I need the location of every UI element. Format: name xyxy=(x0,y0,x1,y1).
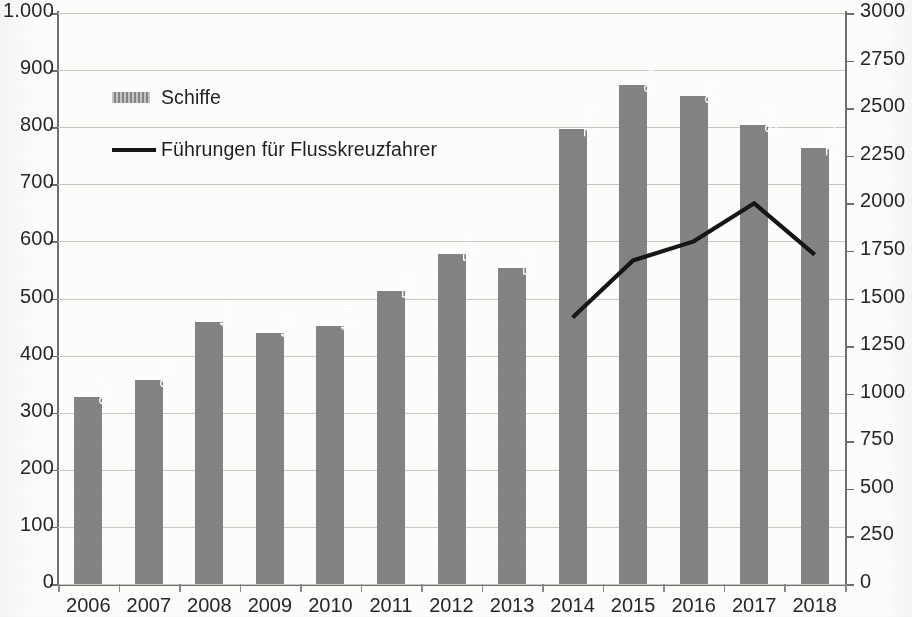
bar xyxy=(438,254,466,584)
category-axis-tick-label: 2007 xyxy=(119,594,180,617)
line-swatch-icon xyxy=(112,148,156,152)
bar-value-label: 764 xyxy=(823,126,843,156)
category-axis-tick-label: 2018 xyxy=(784,594,845,617)
right-axis-tick-label: 1000 xyxy=(860,380,905,403)
left-axis-tick-label: 300 xyxy=(20,399,54,422)
gridline xyxy=(58,584,845,585)
right-axis-tick-label: 1750 xyxy=(860,237,905,260)
right-axis-tick xyxy=(846,394,854,396)
right-axis-tick xyxy=(846,584,854,586)
category-axis-tick xyxy=(421,584,423,592)
right-axis-tick xyxy=(846,13,854,15)
bar xyxy=(135,380,163,584)
bar-value-label: 439 xyxy=(278,311,298,341)
left-axis-tick-label: 0 xyxy=(43,570,54,593)
category-axis-tick-label: 2015 xyxy=(603,594,664,617)
category-axis-tick xyxy=(58,584,60,592)
category-axis-tick-label: 2009 xyxy=(240,594,301,617)
category-axis-tick xyxy=(240,584,242,592)
left-axis-tick-label: 800 xyxy=(20,113,54,136)
right-axis-tick xyxy=(846,346,854,348)
right-axis-tick xyxy=(846,203,854,205)
category-axis-tick xyxy=(542,584,544,592)
chart: 01002003004005006007008009001.000 025050… xyxy=(0,0,912,617)
left-axis-tick-label: 400 xyxy=(20,342,54,365)
gridline xyxy=(58,241,845,242)
category-axis-tick-label: 2012 xyxy=(421,594,482,617)
bar-value-label: 451 xyxy=(338,305,358,335)
right-axis-tick xyxy=(846,61,854,63)
bar xyxy=(195,322,223,584)
right-axis-tick-label: 2500 xyxy=(860,94,905,117)
left-axis-tick-label: 1.000 xyxy=(3,0,54,22)
right-axis-tick xyxy=(846,536,854,538)
gridline xyxy=(58,70,845,71)
right-axis-tick-label: 2250 xyxy=(860,142,905,165)
bar xyxy=(316,326,344,584)
bar-value-label: 458 xyxy=(217,301,237,331)
category-axis-tick-label: 2011 xyxy=(361,594,422,617)
gridline xyxy=(58,127,845,128)
bar xyxy=(680,96,708,584)
category-axis-tick-label: 2010 xyxy=(300,594,361,617)
category-axis-tick xyxy=(663,584,665,592)
category-axis-tick xyxy=(179,584,181,592)
bar-value-label: 553 xyxy=(520,246,540,276)
bar xyxy=(498,268,526,584)
right-axis-tick xyxy=(846,156,854,158)
category-axis-tick xyxy=(845,584,847,592)
right-axis-tick xyxy=(846,108,854,110)
bar-value-label: 358 xyxy=(157,358,177,388)
category-axis-tick-label: 2006 xyxy=(58,594,119,617)
right-axis-tick-label: 0 xyxy=(860,570,871,593)
left-axis-tick-label: 100 xyxy=(20,513,54,536)
gridline xyxy=(58,13,845,14)
right-axis-tick-label: 2750 xyxy=(860,47,905,70)
left-axis-tick-label: 200 xyxy=(20,456,54,479)
bar-value-label: 578 xyxy=(460,232,480,262)
legend-item-schiffe: Schiffe xyxy=(112,86,221,109)
bar xyxy=(256,333,284,584)
left-axis-tick-label: 700 xyxy=(20,170,54,193)
bar xyxy=(559,129,587,584)
gridline xyxy=(58,184,845,185)
category-axis-tick-label: 2017 xyxy=(724,594,785,617)
category-axis-tick xyxy=(724,584,726,592)
bar xyxy=(377,291,405,584)
category-axis-tick-label: 2014 xyxy=(542,594,603,617)
right-axis-tick-label: 2000 xyxy=(860,189,905,212)
bar xyxy=(740,125,768,584)
bar-swatch-icon xyxy=(112,92,150,103)
category-axis-tick xyxy=(482,584,484,592)
right-axis-tick-label: 750 xyxy=(860,427,894,450)
category-axis-tick-label: 2013 xyxy=(482,594,543,617)
left-axis-tick-label: 900 xyxy=(20,56,54,79)
legend-label-fuehrungen: Führungen für Flusskreuzfahrer xyxy=(161,138,437,161)
bar-value-label: 804 xyxy=(762,103,782,133)
right-axis-tick-label: 500 xyxy=(860,475,894,498)
bar xyxy=(801,148,829,584)
left-axis-tick-label: 600 xyxy=(20,227,54,250)
right-axis-tick-label: 1500 xyxy=(860,285,905,308)
category-axis-tick xyxy=(784,584,786,592)
right-axis-tick xyxy=(846,251,854,253)
right-axis-tick-label: 3000 xyxy=(860,0,905,22)
category-axis-tick xyxy=(603,584,605,592)
category-axis-tick-label: 2008 xyxy=(179,594,240,617)
category-axis-tick-label: 2016 xyxy=(663,594,724,617)
right-axis-tick-label: 1250 xyxy=(860,332,905,355)
right-axis-tick xyxy=(846,441,854,443)
right-axis-tick xyxy=(846,299,854,301)
right-axis-tick-label: 250 xyxy=(860,522,894,545)
bar-value-label: 874 xyxy=(641,63,661,93)
category-axis-tick xyxy=(300,584,302,592)
bar-value-label: 796 xyxy=(581,108,601,138)
category-axis-tick xyxy=(361,584,363,592)
right-axis-tick xyxy=(846,489,854,491)
category-axis-tick xyxy=(119,584,121,592)
bar xyxy=(619,85,647,584)
legend-label-schiffe: Schiffe xyxy=(161,86,221,109)
bar-value-label: 855 xyxy=(702,74,722,104)
bar-value-label: 514 xyxy=(399,269,419,299)
legend-item-fuehrungen: Führungen für Flusskreuzfahrer xyxy=(112,138,437,161)
